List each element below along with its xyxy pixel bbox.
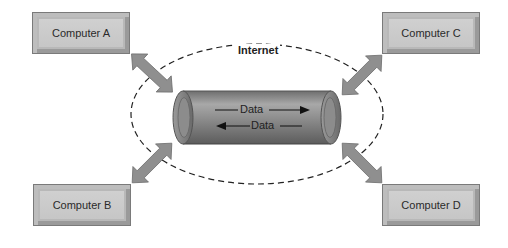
double-arrow-icon-a [124, 46, 180, 100]
double-arrow-icon-c [334, 47, 389, 102]
computer-d-box: Computer D [382, 184, 480, 226]
double-arrow-icon-d [334, 135, 389, 190]
double-arrow-icon-b [124, 135, 179, 190]
computer-a-label: Computer A [52, 27, 110, 39]
data-pipe-icon [173, 91, 341, 144]
computer-d-label: Computer D [401, 199, 460, 211]
computer-a-box: Computer A [32, 12, 130, 54]
computer-c-label: Computer C [401, 27, 460, 39]
computer-b-label: Computer B [53, 199, 112, 211]
computer-c-box: Computer C [382, 12, 480, 54]
computer-b-box: Computer B [33, 184, 131, 226]
data-forward-label: Data [240, 103, 263, 115]
data-backward-label: Data [251, 119, 274, 131]
internet-label: Internet [236, 44, 280, 56]
